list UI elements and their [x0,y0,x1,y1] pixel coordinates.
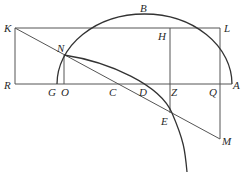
label-L: L [223,22,230,34]
arc-GBA [57,14,232,84]
label-K: K [3,22,12,34]
label-B: B [140,2,147,14]
label-N: N [56,42,65,54]
label-R: R [3,79,11,91]
label-E: E [160,115,168,127]
label-M: M [221,135,232,147]
label-H: H [157,30,167,42]
label-G: G [48,86,56,98]
curve-NDE [64,55,187,172]
label-A: A [232,79,240,91]
label-O: O [61,86,69,98]
label-Z: Z [171,86,178,98]
label-Q: Q [209,86,217,98]
geometry-diagram: K B H L N R G O C D Z Q A E M [0,0,242,175]
label-C: C [109,86,117,98]
label-D: D [138,86,147,98]
